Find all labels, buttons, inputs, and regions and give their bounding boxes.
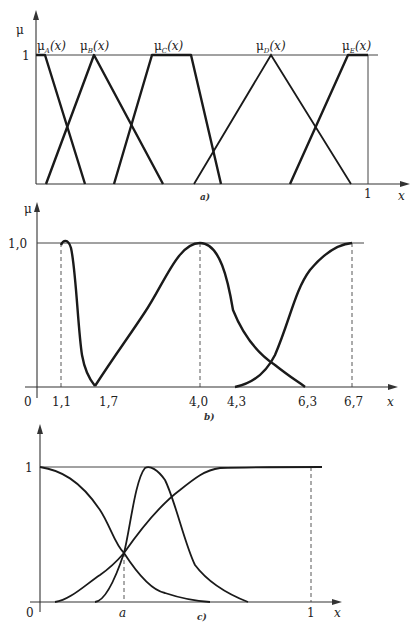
y-tick-1-c: 1 (25, 461, 33, 475)
caption-b: b) (204, 412, 215, 422)
x-tick-1-7: 1,7 (99, 395, 118, 409)
x-tick-a: a (119, 606, 126, 620)
x-arrow-icon (332, 599, 342, 605)
x-tick-1-1: 1,1 (52, 395, 71, 409)
curve-mu-a (36, 55, 85, 184)
y-tick-1-a: 1 (22, 49, 30, 63)
svg-text:μC(x): μC(x) (154, 39, 184, 55)
label-mu-e: μE(x) (342, 39, 371, 55)
mu-label-a: μ (16, 23, 24, 37)
chart-a: μ 1 1 x a) μA(x) μB(x) μC(x) μD(x) μE(x) (16, 10, 410, 203)
chart-c: 1 0 a 1 x c) (25, 424, 342, 622)
curve-mu-e (290, 55, 368, 184)
x-arrow-icon (400, 181, 410, 187)
x-tick-1-c: 1 (307, 606, 315, 620)
x-tick-6-3: 6,3 (298, 395, 317, 409)
x-tick-4-0: 4,0 (189, 395, 208, 409)
label-mu-c: μC(x) (154, 39, 184, 55)
curve-b-3 (235, 243, 352, 387)
y-arrow-icon (34, 202, 40, 212)
x-label-b: x (387, 395, 394, 409)
x-arrow-icon (388, 384, 398, 390)
x-tick-0-b: 0 (24, 395, 32, 409)
y-arrow-icon (33, 10, 39, 20)
y-arrow-icon (37, 424, 43, 434)
x-tick-4-3: 4,3 (227, 395, 246, 409)
y-tick-1-0: 1,0 (8, 237, 27, 251)
svg-text:μB(x): μB(x) (80, 39, 109, 55)
curve-c-bell (95, 467, 248, 602)
label-mu-b: μB(x) (80, 39, 109, 55)
figure-canvas: μ 1 1 x a) μA(x) μB(x) μC(x) μD(x) μE(x) (0, 0, 418, 634)
x-tick-0-c: 0 (26, 606, 34, 620)
caption-c: c) (197, 612, 207, 622)
svg-text:μA(x): μA(x) (37, 39, 66, 55)
x-label-a: x (398, 189, 405, 203)
label-mu-a: μA(x) (37, 39, 66, 55)
x-tick-1-a: 1 (364, 187, 372, 201)
x-tick-6-7: 6,7 (344, 395, 363, 409)
label-mu-d: μD(x) (256, 39, 286, 55)
mu-label-b: μ (24, 202, 32, 216)
curve-b-1 (61, 241, 95, 386)
caption-a: a) (200, 192, 210, 202)
svg-text:μE(x): μE(x) (342, 39, 371, 55)
x-label-c: x (334, 606, 341, 620)
curve-c-increasing (55, 467, 322, 602)
svg-text:μD(x): μD(x) (256, 39, 286, 55)
chart-b: μ 1,0 0 1,1 1,7 4,0 4,3 6,3 6,7 x b) (8, 202, 398, 422)
